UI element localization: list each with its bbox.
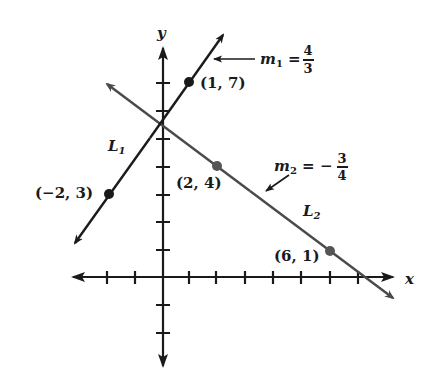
point-label-2-4: (2, 4): [176, 174, 222, 192]
m2-subscript: 2: [290, 165, 297, 176]
point-label-6-1: (6, 1): [274, 247, 320, 265]
m1-equals: =: [288, 50, 301, 68]
m2-letter: m: [274, 157, 290, 175]
line-l2: [107, 84, 393, 298]
point-1-7: [184, 77, 194, 87]
m1-denominator: 3: [302, 62, 314, 75]
l2-letter: L: [303, 202, 314, 220]
point-6-1: [325, 246, 335, 256]
m1-letter: m: [260, 50, 276, 68]
point-2-4: [212, 161, 222, 171]
l1-letter: L: [108, 137, 119, 155]
y-axis: [156, 48, 170, 366]
line-label-l2: L2: [303, 202, 321, 221]
slope-m1-label: m1 =: [260, 50, 301, 69]
m2-denominator: 4: [336, 169, 348, 182]
l1-subscript: 1: [119, 145, 126, 156]
l2-subscript: 2: [314, 210, 321, 221]
m2-pointer-arrow-icon: [266, 175, 289, 191]
m2-equals: =: [302, 157, 315, 175]
line-l1: [75, 35, 223, 243]
m2-numerator: 3: [336, 152, 348, 165]
slope-m2-label: m2 = −: [274, 157, 332, 176]
point-label-1-7: (1, 7): [200, 74, 246, 92]
x-axis-label: x: [405, 270, 414, 288]
line-label-l1: L1: [108, 137, 126, 156]
point-neg2-3: [104, 189, 114, 199]
m1-subscript: 1: [276, 58, 283, 69]
x-axis: [73, 271, 393, 284]
y-axis-label: y: [157, 24, 166, 42]
coordinate-diagram: y x (1, 7) (−2, 3) (2, 4) (6, 1) L1 L2 m…: [0, 0, 438, 391]
m1-numerator: 4: [302, 44, 314, 57]
m2-sign: −: [320, 157, 333, 175]
point-label-neg2-3: (−2, 3): [35, 184, 93, 202]
